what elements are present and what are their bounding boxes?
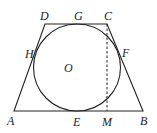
trapezoid-incircle-diagram: D G C H F O A E M B [0, 0, 157, 133]
label-m: M [101, 115, 113, 129]
label-d: D [39, 9, 49, 23]
label-a: A [6, 114, 15, 128]
label-o: O [64, 61, 73, 75]
label-f: F [121, 46, 130, 60]
label-b: B [140, 114, 148, 128]
label-c: C [104, 9, 113, 23]
label-h: H [24, 47, 35, 61]
label-e: E [72, 115, 81, 129]
label-g: G [74, 9, 83, 23]
